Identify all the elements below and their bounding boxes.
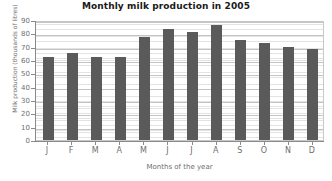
y-axis-line bbox=[35, 21, 36, 142]
plot-area bbox=[35, 21, 324, 141]
bar bbox=[115, 57, 126, 140]
x-tick-label: M bbox=[84, 146, 106, 155]
x-tick-mark bbox=[192, 142, 193, 145]
bar bbox=[283, 47, 294, 140]
x-tick-label: J bbox=[181, 146, 203, 155]
bar bbox=[43, 57, 54, 140]
y-tick-mark bbox=[31, 21, 35, 22]
x-tick-label: D bbox=[301, 146, 323, 155]
y-tick-mark bbox=[31, 74, 35, 75]
x-tick-mark bbox=[216, 142, 217, 145]
x-axis-line bbox=[35, 141, 324, 142]
x-tick-mark bbox=[264, 142, 265, 145]
x-tick-label: J bbox=[156, 146, 178, 155]
x-tick-label: O bbox=[253, 146, 275, 155]
x-tick-mark bbox=[167, 142, 168, 145]
x-axis-title: Months of the year bbox=[35, 163, 324, 171]
bar-series bbox=[36, 22, 323, 140]
bar bbox=[259, 43, 270, 140]
y-tick-mark bbox=[31, 128, 35, 129]
x-tick-mark bbox=[143, 142, 144, 145]
x-tick-mark bbox=[288, 142, 289, 145]
x-tick-label: A bbox=[108, 146, 130, 155]
x-tick-mark bbox=[240, 142, 241, 145]
bar bbox=[211, 25, 222, 140]
y-tick-mark bbox=[31, 34, 35, 35]
bar bbox=[67, 53, 78, 140]
y-tick-mark bbox=[31, 48, 35, 49]
bar bbox=[187, 32, 198, 140]
x-tick-mark bbox=[71, 142, 72, 145]
x-tick-mark bbox=[47, 142, 48, 145]
y-tick-mark bbox=[31, 101, 35, 102]
x-tick-mark bbox=[119, 142, 120, 145]
x-tick-mark bbox=[95, 142, 96, 145]
x-tick-label: S bbox=[229, 146, 251, 155]
x-tick-label: M bbox=[132, 146, 154, 155]
x-tick-label: J bbox=[36, 146, 58, 155]
x-tick-label: F bbox=[60, 146, 82, 155]
chart-title: Monthly milk production in 2005 bbox=[0, 1, 332, 11]
y-tick-mark bbox=[31, 141, 35, 142]
x-tick-mark bbox=[312, 142, 313, 145]
x-tick-label: A bbox=[205, 146, 227, 155]
bar bbox=[307, 49, 318, 140]
bar bbox=[163, 29, 174, 140]
y-tick-label: 0 bbox=[0, 137, 30, 145]
y-tick-mark bbox=[31, 88, 35, 89]
bar bbox=[91, 57, 102, 140]
x-tick-label: N bbox=[277, 146, 299, 155]
y-tick-mark bbox=[31, 61, 35, 62]
bar bbox=[235, 40, 246, 140]
y-tick-label: 10 bbox=[0, 124, 30, 132]
y-axis-title: Milk production (thousands of litres) bbox=[11, 0, 18, 119]
y-tick-mark bbox=[31, 114, 35, 115]
chart-page: Monthly milk production in 2005 01020304… bbox=[0, 0, 332, 181]
bar bbox=[139, 37, 150, 140]
